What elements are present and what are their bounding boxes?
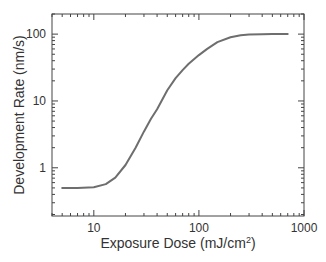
x-tick-labels: 101001000 (87, 221, 318, 235)
plot-frame (52, 14, 304, 216)
axis-ticks (52, 14, 304, 216)
y-tick-labels: 110100 (26, 27, 46, 175)
x-tick-label: 10 (87, 221, 101, 235)
y-tick-label: 1 (39, 161, 46, 175)
development-rate-curve (62, 34, 288, 188)
x-tick-label: 100 (189, 221, 209, 235)
chart: 101001000 110100 Exposure Dose (mJ/cm2) … (0, 0, 326, 262)
y-tick-label: 10 (33, 94, 47, 108)
y-tick-label: 100 (26, 27, 46, 41)
x-axis-label: Exposure Dose (mJ/cm2) (100, 235, 255, 251)
x-tick-label: 1000 (291, 221, 318, 235)
y-axis-label: Development Rate (nm/s) (11, 35, 27, 195)
